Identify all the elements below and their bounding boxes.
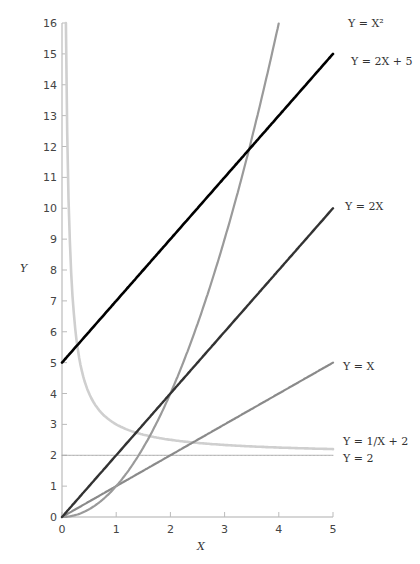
series-label-y-x: Y = X² [347,17,384,30]
y-tick-label: 7 [50,295,57,308]
y-axis-title: Y [20,262,29,275]
series-line-y-2x [62,208,333,517]
y-tick-label: 2 [50,449,57,462]
series-line-y-x [62,24,279,517]
x-tick-label: 1 [113,523,120,536]
series-label-y-2: Y = 2 [342,452,373,465]
y-tick-label: 16 [43,17,57,30]
x-tick-label: 0 [59,523,66,536]
y-tick-label: 0 [50,511,57,524]
series-labels: Y = X²Y = 2X + 5Y = 2XY = XY = 1/X + 2Y … [342,17,413,465]
y-tick-label: 15 [43,48,57,61]
x-tick-label: 3 [221,523,228,536]
y-tick-label: 3 [50,418,57,431]
x-tick-label: 4 [275,523,282,536]
series-lines [62,23,333,517]
y-tick-label: 12 [43,141,57,154]
x-tick-label: 5 [330,523,337,536]
y-tick-label: 11 [43,171,57,184]
y-tick-label: 13 [43,110,57,123]
y-tick-label: 9 [50,233,57,246]
x-tick-label: 2 [167,523,174,536]
y-tick-label: 6 [50,326,57,339]
x-axis-title: X [196,540,206,553]
function-plot: 012345678910111213141516012345 Y = X²Y =… [0,0,420,564]
y-tick-label: 4 [50,388,57,401]
series-label-y-x: Y = X [342,360,374,373]
series-line-y-2x-5 [62,54,333,363]
series-label-y-1-x-2: Y = 1/X + 2 [342,435,408,448]
series-label-y-2x-5: Y = 2X + 5 [350,55,413,68]
y-tick-label: 8 [50,264,57,277]
axes: 012345678910111213141516012345 [43,17,337,536]
y-tick-label: 14 [43,79,57,92]
series-line-y-x [62,363,333,517]
y-tick-label: 10 [43,202,57,215]
y-tick-label: 5 [50,357,57,370]
y-tick-label: 1 [50,480,57,493]
series-label-y-2x: Y = 2X [344,200,383,213]
